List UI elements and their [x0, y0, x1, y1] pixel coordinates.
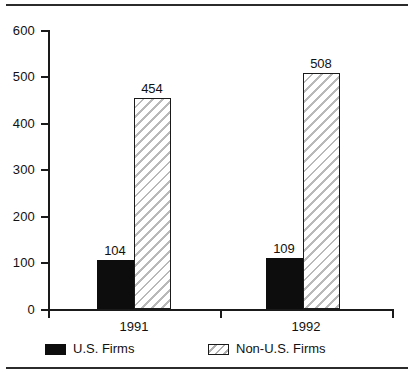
x-axis-tick-left: [48, 309, 50, 318]
bars-layer: 104 454 109 508: [0, 0, 414, 309]
bar-1991-non-us-firms[interactable]: [134, 98, 171, 309]
x-axis-tick-label-1991: 1991: [94, 320, 174, 334]
legend-item-non-us-firms[interactable]: Non-U.S. Firms: [208, 342, 326, 356]
bar-1992-us-firms[interactable]: [266, 258, 303, 309]
legend-item-us-firms[interactable]: U.S. Firms: [45, 342, 134, 356]
plot-area: 600 500 400 300 200 100 0 1991 1992 104 …: [0, 0, 414, 340]
x-axis-tick-center: [220, 309, 222, 318]
legend-label-us-firms: U.S. Firms: [73, 342, 134, 356]
x-axis-tick-right: [392, 309, 394, 318]
bar-1992-non-us-firms[interactable]: [303, 73, 340, 309]
bar-1991-us-firms[interactable]: [97, 260, 134, 309]
legend-swatch-hatched-icon: [208, 344, 229, 355]
bar-label-1992-non-us-firms: 508: [291, 57, 351, 70]
chart-legend: U.S. Firms Non-U.S. Firms: [0, 339, 414, 363]
bar-chart-figure: 600 500 400 300 200 100 0 1991 1992 104 …: [0, 0, 414, 377]
bottom-horizontal-rule: [6, 367, 408, 369]
legend-label-non-us-firms: Non-U.S. Firms: [236, 342, 326, 356]
x-axis-tick-label-1992: 1992: [266, 320, 346, 334]
bar-label-1991-non-us-firms: 454: [122, 82, 182, 95]
legend-swatch-solid-icon: [45, 344, 66, 355]
